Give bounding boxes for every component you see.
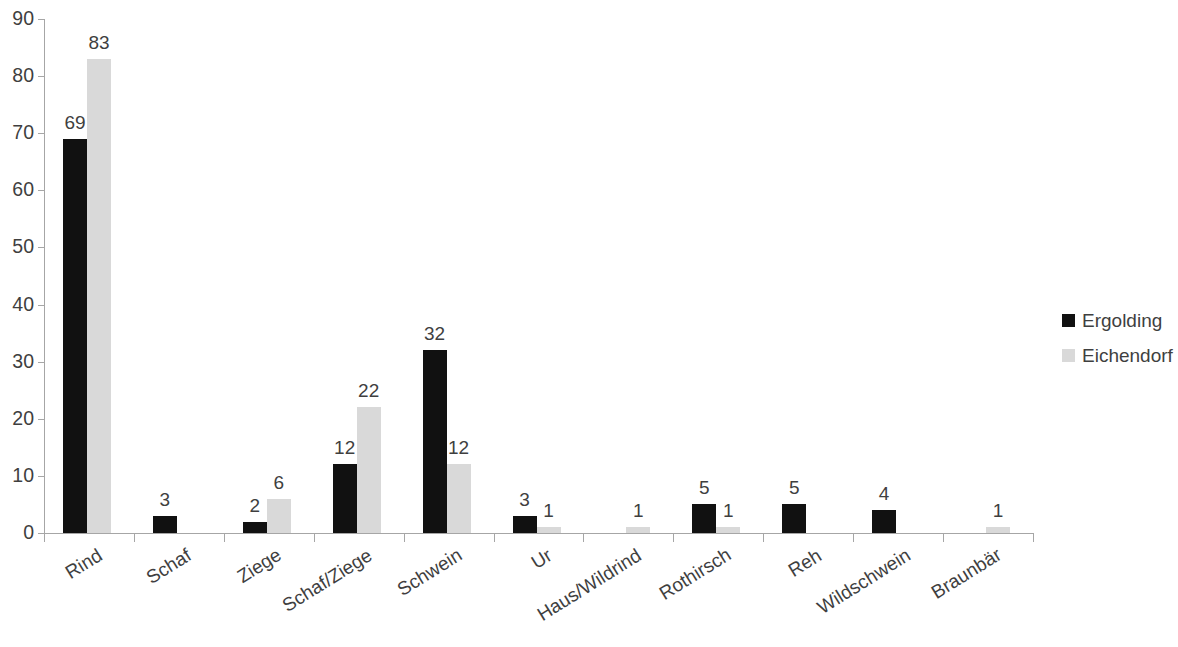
y-axis-tick: [38, 19, 44, 20]
y-axis-tick-label: 10: [0, 466, 34, 486]
x-axis-label-rind: Rind: [62, 545, 105, 582]
x-axis-tick: [583, 533, 584, 542]
bar-value-label: 12: [315, 438, 375, 457]
chart-legend: ErgoldingEichendorf: [1062, 303, 1173, 373]
bar-schaf-ziege-eichendorf: [357, 407, 381, 533]
legend-label: Eichendorf: [1082, 346, 1173, 365]
x-axis-label-rothirsch: Rothirsch: [656, 545, 734, 604]
x-axis-tick: [494, 533, 495, 542]
bar-reh-ergolding: [782, 504, 806, 533]
x-axis-tick: [853, 533, 854, 542]
y-axis-tick-label: 20: [0, 409, 34, 429]
bar-rothirsch-eichendorf: [716, 527, 740, 533]
bar-haus-wildrind-eichendorf: [626, 527, 650, 533]
bar-rind-ergolding: [63, 139, 87, 533]
y-axis-tick-label: 0: [0, 523, 34, 543]
plot-area: 69833261222321231151541: [44, 19, 1033, 533]
x-axis-tick: [404, 533, 405, 542]
x-axis-label-schaf-ziege: Schaf/Ziege: [279, 545, 375, 615]
x-axis-label-schaf: Schaf: [143, 545, 194, 587]
bar-value-label: 6: [249, 473, 309, 492]
x-axis-tick: [1033, 533, 1034, 542]
x-axis-tick: [134, 533, 135, 542]
y-axis-tick: [38, 362, 44, 363]
bar-ur-eichendorf: [537, 527, 561, 533]
y-axis-tick: [38, 476, 44, 477]
y-axis-tick-label: 90: [0, 9, 34, 29]
y-axis-tick-label: 70: [0, 123, 34, 143]
x-axis-line: [44, 533, 1033, 534]
bar-value-label: 5: [764, 478, 824, 497]
y-axis-tick: [38, 305, 44, 306]
x-axis-label-braunb-r: Braunbär: [928, 545, 1004, 603]
y-axis-line: [44, 19, 45, 534]
x-axis-label-schwein: Schwein: [394, 545, 465, 599]
x-axis-label-ziege: Ziege: [234, 545, 284, 586]
bar-value-label: 22: [339, 381, 399, 400]
bar-value-label: 1: [968, 501, 1028, 520]
y-axis-tick-label: 80: [0, 66, 34, 86]
chart-page: 69833261222321231151541 0102030405060708…: [0, 0, 1178, 647]
y-axis-tick-label: 40: [0, 295, 34, 315]
legend-swatch-icon: [1062, 314, 1075, 327]
bar-value-label: 3: [135, 490, 195, 509]
bar-value-label: 5: [674, 478, 734, 497]
bar-value-label: 1: [519, 501, 579, 520]
bar-value-label: 69: [45, 113, 105, 132]
legend-item-ergolding[interactable]: Ergolding: [1062, 303, 1173, 338]
bar-braunb-r-eichendorf: [986, 527, 1010, 533]
bar-value-label: 1: [608, 501, 668, 520]
y-axis-tick: [38, 247, 44, 248]
y-axis-tick-label: 30: [0, 352, 34, 372]
x-axis-label-ur: Ur: [528, 545, 555, 572]
x-axis-label-reh: Reh: [785, 545, 825, 580]
x-axis-tick: [943, 533, 944, 542]
x-axis-tick: [673, 533, 674, 542]
y-axis-tick-label: 60: [0, 180, 34, 200]
legend-item-eichendorf[interactable]: Eichendorf: [1062, 338, 1173, 373]
y-axis-tick: [38, 190, 44, 191]
bar-value-label: 4: [854, 484, 914, 503]
bar-schaf-ergolding: [153, 516, 177, 533]
x-axis-tick: [44, 533, 45, 542]
bar-schwein-eichendorf: [447, 464, 471, 533]
bar-wildschwein-ergolding: [872, 510, 896, 533]
y-axis-tick: [38, 76, 44, 77]
bar-value-label: 2: [225, 496, 285, 515]
y-axis-tick: [38, 419, 44, 420]
x-axis-label-wildschwein: Wildschwein: [814, 545, 914, 617]
legend-label: Ergolding: [1082, 311, 1162, 330]
bar-value-label: 1: [698, 501, 758, 520]
bar-ziege-ergolding: [243, 522, 267, 533]
bar-value-label: 83: [69, 33, 129, 52]
y-axis-tick: [38, 133, 44, 134]
x-axis-tick: [314, 533, 315, 542]
bar-value-label: 32: [405, 324, 465, 343]
bar-value-label: 12: [429, 438, 489, 457]
legend-swatch-icon: [1062, 349, 1075, 362]
x-axis-tick: [224, 533, 225, 542]
bar-schaf-ziege-ergolding: [333, 464, 357, 533]
x-axis-tick: [763, 533, 764, 542]
y-axis-tick-label: 50: [0, 237, 34, 257]
